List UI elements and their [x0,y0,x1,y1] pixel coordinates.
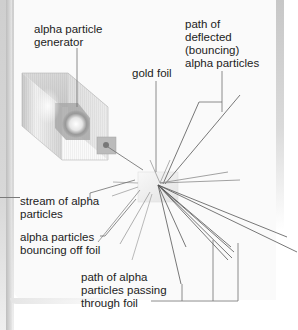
label-generator: alpha particle generator [34,23,102,49]
label-bouncing: alpha particles bouncing off foil [20,231,100,257]
alpha-beam [108,147,143,170]
label-stream: stream of alpha particles [20,195,99,221]
label-gold-foil: gold foil [132,67,172,80]
label-passing-through: path of alpha particles passing through … [81,271,167,310]
label-deflected-paths: path of deflected (bouncing) alpha parti… [185,18,259,70]
diagram-panel: alpha particle generator gold foil path … [0,0,298,330]
particle-paths [98,95,297,284]
generator-box [22,73,116,160]
